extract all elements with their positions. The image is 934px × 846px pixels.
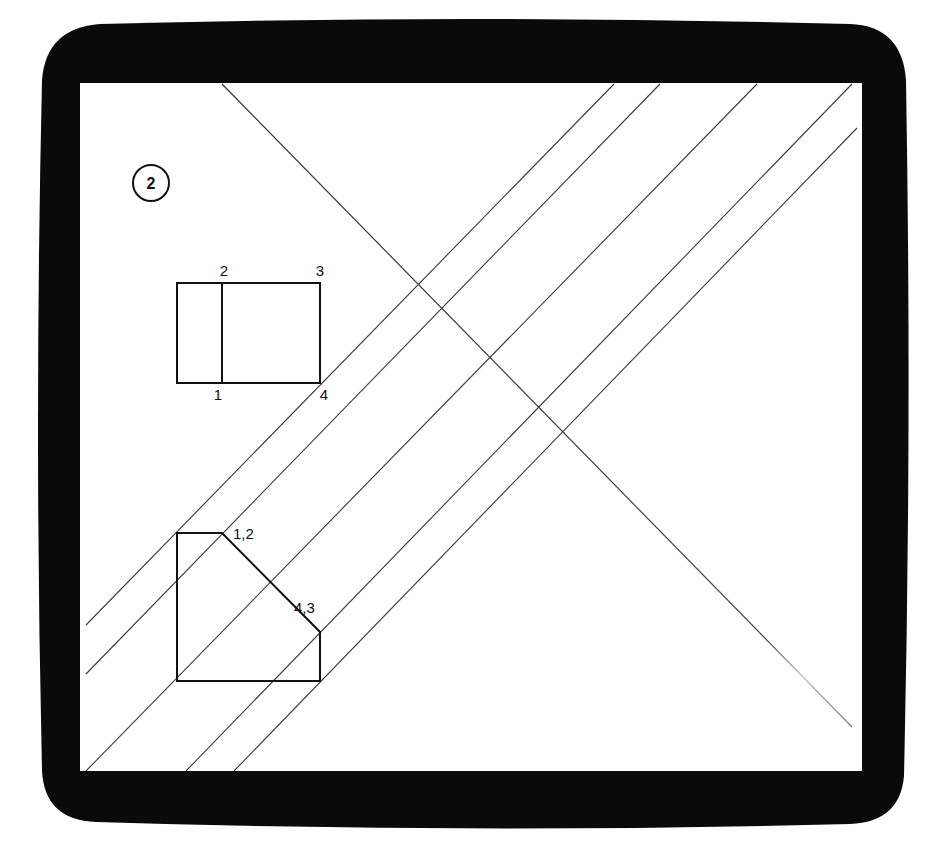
elevation-label-4: 4 [320,386,328,403]
step-badge-number: 2 [147,175,156,192]
elevation-label-3: 3 [316,262,324,279]
projected-label-1-2: 1,2 [233,525,254,542]
elevation-label-1: 1 [214,386,222,403]
projected-label-4-3: 4,3 [294,599,315,616]
diagram-canvas: 2 2 3 1 4 1,2 4,3 [0,0,934,846]
elevation-label-2: 2 [220,262,228,279]
screen-area [80,83,862,771]
